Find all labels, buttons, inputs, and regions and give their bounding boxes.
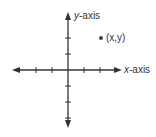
- point-marker: [99, 36, 103, 40]
- y-axis-down-arrow-icon: [65, 120, 71, 128]
- x-axis-right-arrow-icon: [114, 67, 122, 73]
- x-axis: [12, 67, 122, 73]
- y-axis-up-arrow-icon: [65, 12, 71, 20]
- point-label: (x,y): [106, 32, 125, 43]
- coordinate-plane-diagram: y-axis (x,y) x-axis: [0, 0, 156, 137]
- x-axis-left-arrow-icon: [12, 67, 20, 73]
- x-axis-label: x-axis: [123, 64, 150, 75]
- y-axis-label: y-axis: [73, 10, 100, 21]
